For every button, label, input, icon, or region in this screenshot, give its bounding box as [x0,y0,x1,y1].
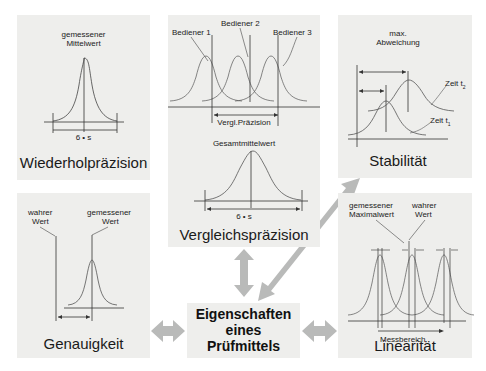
accuracy-curve [17,193,150,358]
label-zeit-t1: Zeit t1 [430,116,451,129]
center-title-line-2: eines [187,322,300,338]
panel-title: Stabilität [338,152,458,169]
center-title-line-1: Eigenschaften [187,306,300,322]
span-label-6s: 6 • s [17,133,150,142]
panel-title: Vergleichspräzision [168,226,320,243]
panel-title-linearitaet: Linearität [338,337,472,354]
panel-title: Genauigkeit [17,335,150,352]
panel-title: Wiederholpräzision [17,154,150,171]
double-arrow-right [302,320,337,342]
label-gesamtmittelwert: Gesamtmittelwert [168,139,320,148]
double-arrow-vertical [234,249,254,297]
panel-wiederholpraezision: gemessener Mittelwert 6 • s Wiederholprä… [17,15,150,180]
panel-genauigkeit: wahrer Wert gemessener Wert Genauigkeit [17,193,150,358]
panel-linearitaet: gemessener Maximalwert wahrer Wert Messb… [338,193,472,358]
label-zeit-t2: Zeit t2 [445,79,466,92]
linearity-curves [338,193,472,358]
label-vergl-praezision: Vergl.Präzision [168,118,320,127]
double-arrow-left [151,320,185,342]
span-label-6s: 6 • s [168,212,320,221]
center-title-line-3: Prüfmittels [187,338,300,354]
panel-stabilitaet: max. Abweichung Zeit t2 Zeit t1 Stabilit… [338,15,472,178]
panel-vergleichspraezision: Bediener 1 Bediener 2 Bediener 3 Vergl.P… [168,15,320,247]
